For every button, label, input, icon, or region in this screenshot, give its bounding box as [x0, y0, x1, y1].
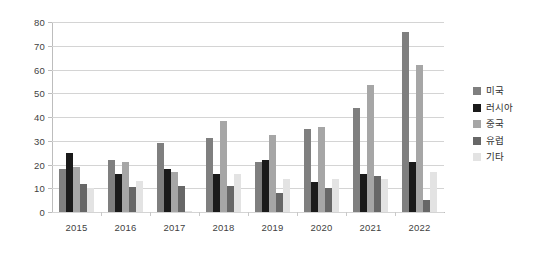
bar — [220, 121, 227, 212]
bar-group — [52, 22, 101, 212]
bar-group — [101, 22, 150, 212]
bar — [178, 186, 185, 212]
bar — [171, 172, 178, 212]
y-axis-tick-label: 40 — [19, 112, 45, 123]
bar — [283, 179, 290, 212]
bar-group — [150, 22, 199, 212]
legend-item-label: 중국 — [486, 119, 504, 129]
bar — [325, 188, 332, 212]
bar — [73, 167, 80, 212]
bar — [59, 169, 66, 212]
bar — [115, 174, 122, 212]
bar-group — [248, 22, 297, 212]
bar — [227, 186, 234, 212]
bar — [234, 174, 241, 212]
x-axis-tick-mark — [297, 212, 298, 216]
bar — [269, 135, 276, 212]
bar — [304, 129, 311, 212]
legend-item: 러시아 — [473, 103, 513, 113]
bar — [381, 179, 388, 212]
bar — [185, 211, 192, 212]
bar — [66, 153, 73, 212]
bar — [374, 176, 381, 212]
bar — [423, 200, 430, 212]
chart-legend: 미국러시아중국유럽기타 — [473, 86, 513, 162]
bar-chart: 01020304050607080 2015201620172018201920… — [0, 0, 545, 254]
bar — [108, 160, 115, 212]
legend-item: 유럽 — [473, 136, 513, 146]
bar — [255, 162, 262, 212]
bar — [206, 138, 213, 212]
legend-swatch-icon — [473, 104, 481, 112]
bar-group — [346, 22, 395, 212]
bar — [276, 193, 283, 212]
x-axis-tick-mark — [248, 212, 249, 216]
x-axis-tick-label: 2019 — [262, 222, 284, 233]
bar — [409, 162, 416, 212]
bar — [353, 108, 360, 213]
bar — [164, 169, 171, 212]
x-axis-tick-mark — [199, 212, 200, 216]
bar — [311, 182, 318, 212]
x-axis-tick-mark — [150, 212, 151, 216]
x-axis-tick-mark — [346, 212, 347, 216]
legend-item-label: 러시아 — [486, 103, 513, 113]
bar — [122, 162, 129, 212]
x-axis-tick-label: 2020 — [311, 222, 333, 233]
y-axis-tick-label: 0 — [19, 207, 45, 218]
x-axis-tick-mark — [395, 212, 396, 216]
y-axis-tick-label: 20 — [19, 159, 45, 170]
x-axis-tick-mark — [101, 212, 102, 216]
x-axis-tick-label: 2021 — [360, 222, 382, 233]
x-axis-tick-label: 2022 — [409, 222, 431, 233]
bar — [318, 127, 325, 213]
bar-group — [199, 22, 248, 212]
legend-swatch-icon — [473, 120, 481, 128]
bar — [430, 172, 437, 212]
x-axis-tick-label: 2015 — [66, 222, 88, 233]
y-axis-tick-label: 80 — [19, 17, 45, 28]
bar — [416, 65, 423, 212]
bar — [360, 174, 367, 212]
y-axis-tick-label: 50 — [19, 88, 45, 99]
bar-group — [297, 22, 346, 212]
bar — [136, 181, 143, 212]
legend-swatch-icon — [473, 137, 481, 145]
legend-item-label: 미국 — [486, 86, 504, 96]
legend-item-label: 기타 — [486, 152, 504, 162]
x-axis-tick-label: 2018 — [213, 222, 235, 233]
legend-item: 중국 — [473, 119, 513, 129]
bar — [157, 143, 164, 212]
y-axis-tick-label: 70 — [19, 40, 45, 51]
bar — [213, 174, 220, 212]
bar — [129, 187, 136, 212]
legend-item-label: 유럽 — [486, 136, 504, 146]
bar — [332, 179, 339, 212]
legend-item: 미국 — [473, 86, 513, 96]
plot-area — [52, 22, 444, 212]
bar — [87, 188, 94, 212]
bar — [367, 85, 374, 212]
bar — [80, 184, 87, 213]
bar — [402, 32, 409, 213]
y-axis-tick-label: 60 — [19, 64, 45, 75]
legend-swatch-icon — [473, 87, 481, 95]
legend-item: 기타 — [473, 152, 513, 162]
y-axis-tick-label: 10 — [19, 183, 45, 194]
bar-group — [395, 22, 444, 212]
legend-swatch-icon — [473, 153, 481, 161]
x-axis-tick-label: 2017 — [164, 222, 186, 233]
x-axis-tick-label: 2016 — [115, 222, 137, 233]
y-axis-tick-label: 30 — [19, 135, 45, 146]
bar — [262, 160, 269, 212]
